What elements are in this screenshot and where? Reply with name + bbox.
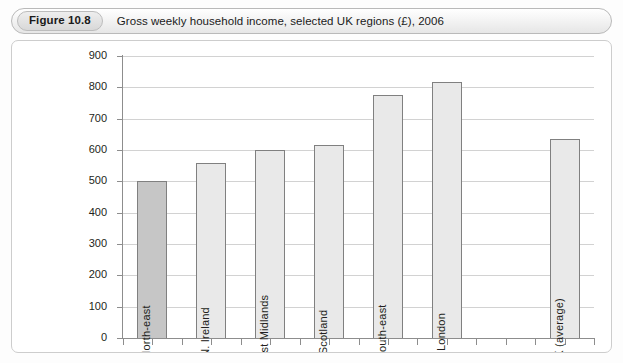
x-tick-mark [152, 339, 153, 345]
x-tick-mark [270, 339, 271, 345]
gridline-200 [123, 275, 594, 276]
figure-caption-text: Gross weekly household income, selected … [117, 14, 444, 28]
y-axis-tick-label: 500 [61, 175, 107, 186]
x-tick-mark [506, 339, 507, 345]
gridline-100 [123, 307, 594, 308]
gridline-900 [123, 56, 594, 57]
figure-number-badge: Figure 10.8 [17, 11, 103, 31]
bar-n-ireland[interactable]: N. Ireland [196, 163, 226, 338]
bar-category-label: London [436, 313, 447, 351]
bar-north-east[interactable]: North-east [137, 181, 167, 338]
x-tick-mark [388, 339, 389, 345]
bar-west-midlands[interactable]: West Midlands [255, 150, 285, 338]
x-tick-mark [476, 339, 477, 345]
plot-wrapper: 0100200300400500600700800900 North-eastN… [12, 41, 612, 353]
gridline-400 [123, 213, 594, 214]
y-axis-tick-label: 600 [61, 144, 107, 155]
bar-category-label: West Midlands [259, 295, 270, 353]
x-tick-mark [182, 339, 183, 345]
bar-uk-average[interactable]: UK (average) [550, 139, 580, 338]
x-tick-mark [300, 339, 301, 345]
y-axis-tick-label: 400 [61, 207, 107, 218]
gridline-500 [123, 181, 594, 182]
y-axis-tick-label: 100 [61, 301, 107, 312]
bar-category-label: N. Ireland [200, 307, 211, 353]
x-tick-mark [123, 339, 124, 345]
gridline-800 [123, 87, 594, 88]
y-axis-tick-label: 700 [61, 113, 107, 124]
x-tick-mark [211, 339, 212, 345]
gridline-700 [123, 119, 594, 120]
bar-category-label: Scotland [318, 310, 329, 353]
bar-category-label: South-east [377, 304, 388, 353]
y-axis-line [122, 55, 123, 339]
chart-panel: 0100200300400500600700800900 North-eastN… [11, 40, 612, 353]
x-tick-mark [535, 339, 536, 345]
bar-south-east[interactable]: South-east [373, 95, 403, 338]
y-axis-tick-label: 300 [61, 238, 107, 249]
bar-london[interactable]: London [432, 82, 462, 338]
bar-category-label: UK (average) [554, 298, 565, 353]
bar-category-label: North-east [141, 305, 152, 353]
y-axis-tick-label: 200 [61, 269, 107, 280]
y-axis-tick-label: 800 [61, 81, 107, 92]
x-tick-mark [594, 339, 595, 345]
y-axis-tick-label: 900 [61, 50, 107, 61]
x-tick-mark [447, 339, 448, 345]
figure-container: Figure 10.8 Gross weekly household incom… [0, 0, 623, 363]
gridline-600 [123, 150, 594, 151]
bar-scotland[interactable]: Scotland [314, 145, 344, 338]
x-tick-mark [417, 339, 418, 345]
x-tick-mark [565, 339, 566, 345]
figure-caption-bar: Figure 10.8 Gross weekly household incom… [11, 8, 612, 34]
x-axis-line [122, 338, 595, 339]
gridline-300 [123, 244, 594, 245]
x-tick-mark [329, 339, 330, 345]
x-tick-mark [359, 339, 360, 345]
x-tick-mark [241, 339, 242, 345]
y-axis-tick-label: 0 [61, 332, 107, 343]
